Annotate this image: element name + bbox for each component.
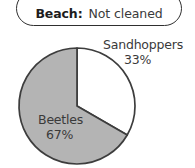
- pie-label-beetles-name: Beetles: [38, 113, 83, 126]
- pie-chart: [0, 0, 195, 168]
- chart-canvas: Beach: Not cleaned Sandhoppers 33% Beetl…: [0, 0, 195, 168]
- pie-label-sandhoppers-name: Sandhoppers: [103, 38, 183, 51]
- pie-label-beetles-percent: 67%: [46, 128, 73, 141]
- pie-label-sandhoppers-percent: 33%: [124, 53, 151, 66]
